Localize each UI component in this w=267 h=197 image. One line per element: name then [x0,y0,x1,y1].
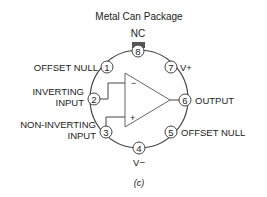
pin-8: 8 [132,45,144,57]
wire-inverting-input [100,83,125,99]
pin4-label: V− [133,157,145,168]
figure-caption: (c) [134,178,145,188]
svg-text:6: 6 [182,95,187,106]
pin-6: 6 [179,94,191,106]
pin3-label-line2: INPUT [68,130,97,141]
svg-text:5: 5 [168,127,173,138]
pin-7: 7 [165,61,177,73]
svg-text:4: 4 [136,143,141,154]
pin2-label-line2: INPUT [56,97,85,108]
pin-4: 4 [133,142,145,154]
nc-label: NC [131,28,145,39]
inverting-symbol: − [131,78,136,88]
svg-text:3: 3 [103,127,108,138]
diagram-title: Metal Can Package [95,11,183,22]
pin-1: 1 [101,61,113,73]
svg-text:1: 1 [104,62,109,73]
pin7-label: V+ [180,62,192,73]
svg-text:8: 8 [135,46,140,57]
pin-5: 5 [165,126,177,138]
pin6-label: OUTPUT [195,95,234,106]
wire-noninverting-input [106,117,125,127]
pin1-label: OFFSET NULL [34,62,98,73]
pin3-label-line1: NON-INVERTING [20,119,96,130]
svg-text:2: 2 [91,94,96,105]
noninverting-symbol: + [130,113,135,123]
pin-3: 3 [100,126,112,138]
pin-2: 2 [88,93,100,105]
op-amp-pinout-diagram: Metal Can Package NC − + 8 1 7 2 6 3 5 [0,0,267,197]
svg-text:7: 7 [168,62,173,73]
pin2-label-line1: INVERTING [32,86,84,97]
pin5-label: OFFSET NULL [181,127,245,138]
